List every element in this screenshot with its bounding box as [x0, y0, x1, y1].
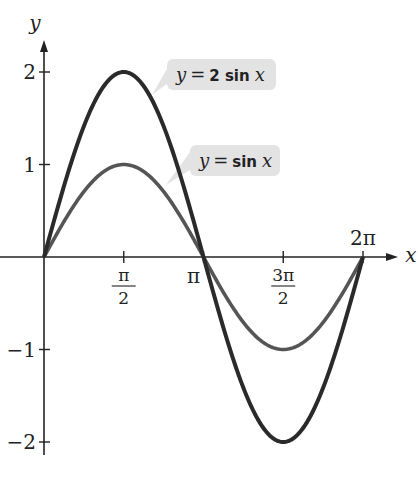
svg-text:y=sinx: y=sinx	[198, 150, 272, 171]
callout-x: x	[255, 64, 265, 85]
y-tick-label: 1	[23, 153, 36, 177]
y-axis-label: y	[28, 11, 41, 35]
legend-callout-2sin: y=2 sinx	[152, 59, 276, 95]
x-axis-arrow-icon	[386, 253, 398, 261]
callout-eq: =	[190, 64, 205, 85]
callout-y: y	[198, 150, 210, 171]
x-tick-label: 2π	[350, 226, 376, 250]
sine-chart: y x 21−1−2 π2π3π22π y=2 sinx y=sinx	[0, 0, 418, 480]
x-tick-label-numerator: 3π	[272, 265, 294, 285]
y-tick-label: −1	[7, 338, 36, 362]
x-tick-label-denominator: 2	[278, 288, 289, 308]
x-tick-label: π	[187, 264, 200, 288]
y-axis-arrow-icon	[40, 40, 48, 52]
callout-x: x	[262, 150, 272, 171]
callout-eq: =	[213, 150, 228, 171]
y-tick-label: 2	[23, 60, 36, 84]
callout-coef: sin	[232, 153, 257, 171]
x-tick-label-numerator: π	[118, 265, 129, 285]
x-tick-label-denominator: 2	[118, 288, 129, 308]
callout-coef: 2 sin	[209, 67, 249, 85]
y-tick-label: −2	[7, 430, 36, 454]
callout-y: y	[175, 64, 187, 85]
x-axis-label: x	[405, 243, 416, 267]
